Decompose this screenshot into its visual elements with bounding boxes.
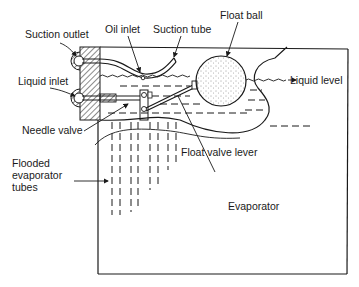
flooded-tubes: [95, 122, 240, 215]
evaporator-diagram: Suction outlet Oil inlet Suction tube Fl…: [0, 0, 359, 287]
liquid-level-line-left: [100, 75, 190, 77]
label-liquid-inlet: Liquid inlet: [18, 75, 68, 87]
label-float-valve-lever: Float valve lever: [181, 146, 258, 158]
liquid-level-line-right: [246, 79, 286, 81]
label-suction-outlet: Suction outlet: [25, 28, 89, 40]
label-liquid-level: Liquid level: [290, 74, 343, 86]
label-oil-inlet: Oil inlet: [105, 23, 140, 35]
label-needle-valve: Needle valve: [22, 124, 83, 136]
oil-inlet-hole: [141, 76, 145, 80]
float-chamber-outline: [100, 47, 287, 133]
label-suction-tube: Suction tube: [153, 23, 212, 35]
float-valve-lever: [140, 81, 197, 120]
label-float-ball: Float ball: [220, 9, 263, 21]
label-flooded-tubes-1: Flooded: [12, 157, 50, 169]
label-flooded-tubes-3: tubes: [12, 181, 38, 193]
label-evaporator: Evaporator: [228, 200, 280, 212]
label-flooded-tubes-2: evaporator: [12, 169, 63, 181]
float-ball: [196, 56, 246, 106]
